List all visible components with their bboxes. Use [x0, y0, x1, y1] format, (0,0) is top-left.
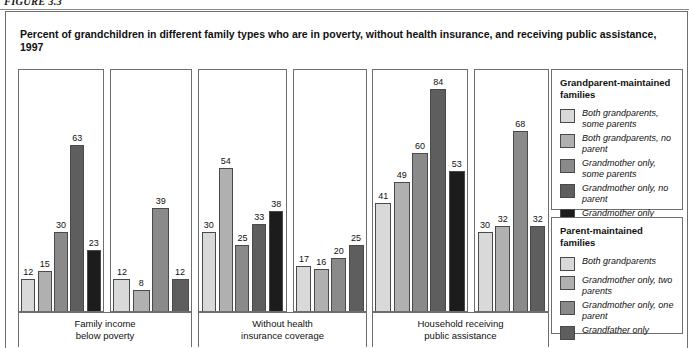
axis-label-line2: public assistance — [424, 330, 496, 342]
bar[interactable] — [70, 145, 84, 311]
bar-item[interactable]: 25 — [349, 68, 364, 311]
bar[interactable] — [269, 211, 283, 311]
bar-item[interactable]: 39 — [152, 68, 169, 311]
bar[interactable] — [219, 168, 233, 311]
bar-value-label: 20 — [334, 246, 344, 257]
legend-item[interactable]: Grandmother only, one parent — [560, 300, 674, 321]
bar-value-label: 84 — [433, 77, 443, 88]
bar[interactable] — [430, 89, 446, 311]
bar[interactable] — [394, 182, 410, 311]
chart-title: Percent of grandchildren in different fa… — [20, 28, 670, 54]
bar[interactable] — [495, 226, 510, 311]
bar[interactable] — [152, 208, 169, 311]
bar-item[interactable]: 30 — [202, 68, 216, 311]
legend-swatch-icon — [560, 301, 575, 315]
bar-value-label: 49 — [397, 170, 407, 181]
bar-item[interactable]: 25 — [235, 68, 249, 311]
bar[interactable] — [113, 279, 130, 311]
legend-items: Both grandparents, some parentsBoth gran… — [560, 108, 674, 223]
figure-number: FIGURE 3.3 — [4, 0, 62, 7]
bar[interactable] — [478, 232, 493, 311]
bar[interactable] — [412, 153, 428, 311]
bar[interactable] — [235, 245, 249, 311]
bar-item[interactable]: 15 — [38, 68, 52, 311]
bar[interactable] — [530, 226, 545, 311]
bar-value-label: 15 — [40, 259, 50, 270]
bar-item[interactable]: 20 — [331, 68, 346, 311]
bar[interactable] — [331, 258, 346, 311]
bar-item[interactable]: 38 — [269, 68, 283, 311]
bar-series: 30326832 — [475, 68, 548, 311]
bar-value-label: 53 — [452, 159, 462, 170]
bar-value-label: 25 — [351, 233, 361, 244]
legend-item-label: Both grandparents, no parent — [582, 133, 674, 154]
bar-item[interactable]: 68 — [513, 68, 528, 311]
bar[interactable] — [172, 279, 189, 311]
figure-rule — [0, 9, 689, 10]
bar-value-label: 32 — [498, 214, 508, 225]
legend-item[interactable]: Grandmother only, some parents — [560, 158, 674, 179]
bar[interactable] — [349, 245, 364, 311]
bar-value-label: 54 — [221, 156, 231, 167]
bar[interactable] — [252, 224, 266, 311]
bar-item[interactable]: 12 — [113, 68, 130, 311]
legend-item-label: Grandmother only, no parent — [582, 183, 674, 204]
bar-item[interactable]: 49 — [394, 68, 410, 311]
bar-series: 1283912 — [111, 68, 191, 311]
bar[interactable] — [202, 232, 216, 311]
bar[interactable] — [38, 271, 52, 311]
bar-item[interactable]: 84 — [430, 68, 446, 311]
bar-series: 17162025 — [294, 68, 366, 311]
bar-item[interactable]: 41 — [375, 68, 391, 311]
legend-swatch-icon — [560, 184, 575, 198]
bar-item[interactable]: 53 — [449, 68, 465, 311]
legend-item-label: Grandmother only, one parent — [582, 300, 674, 321]
bar-item[interactable]: 12 — [21, 68, 35, 311]
bar-item[interactable]: 54 — [219, 68, 233, 311]
bar-item[interactable]: 17 — [296, 68, 311, 311]
legend-swatch-icon — [560, 276, 575, 290]
bar-item[interactable]: 23 — [87, 68, 101, 311]
bar-value-label: 12 — [23, 267, 33, 278]
bar[interactable] — [21, 279, 35, 311]
legend-item[interactable]: Grandfather only — [560, 325, 674, 340]
bar-item[interactable]: 30 — [478, 68, 493, 311]
bar-value-label: 60 — [415, 141, 425, 152]
bar-item[interactable]: 32 — [530, 68, 545, 311]
legend-item[interactable]: Both grandparents, no parent — [560, 133, 674, 154]
bar[interactable] — [87, 250, 101, 311]
legend-item[interactable]: Grandmother only, no parent — [560, 183, 674, 204]
bar[interactable] — [513, 131, 528, 311]
chart-subpanel: 30326832 — [474, 69, 549, 312]
bar-value-label: 23 — [89, 238, 99, 249]
legend-item[interactable]: Both grandparents — [560, 256, 674, 271]
chart-subpanel: 1215306323 — [18, 69, 104, 312]
bar-item[interactable]: 12 — [172, 68, 189, 311]
chart-subpanel: 4149608453 — [372, 69, 468, 312]
bar-value-label: 25 — [237, 233, 247, 244]
bar[interactable] — [449, 171, 465, 311]
bar-item[interactable]: 60 — [412, 68, 428, 311]
axis-label-line1: Family income — [74, 318, 135, 330]
bar[interactable] — [54, 232, 68, 311]
bar[interactable] — [375, 203, 391, 311]
bar-item[interactable]: 30 — [54, 68, 68, 311]
bar-value-label: 38 — [271, 199, 281, 210]
bar-item[interactable]: 63 — [70, 68, 84, 311]
bar[interactable] — [296, 266, 311, 311]
legend-items: Both grandparentsGrandmother only, two p… — [560, 256, 674, 340]
legend-swatch-icon — [560, 134, 575, 148]
bar-value-label: 12 — [175, 267, 185, 278]
bar-item[interactable]: 8 — [133, 68, 150, 311]
bar-item[interactable]: 33 — [252, 68, 266, 311]
bar[interactable] — [133, 290, 150, 311]
legend-swatch-icon — [560, 326, 575, 340]
bar-item[interactable]: 32 — [495, 68, 510, 311]
bar-item[interactable]: 16 — [314, 68, 329, 311]
bar[interactable] — [314, 269, 329, 311]
legend-item[interactable]: Grandmother only, two parents — [560, 275, 674, 296]
bar-value-label: 63 — [72, 133, 82, 144]
legend-item[interactable]: Both grandparents, some parents — [560, 108, 674, 129]
chart-subpanel: 3054253338 — [198, 69, 287, 312]
bar-value-label: 30 — [204, 220, 214, 231]
